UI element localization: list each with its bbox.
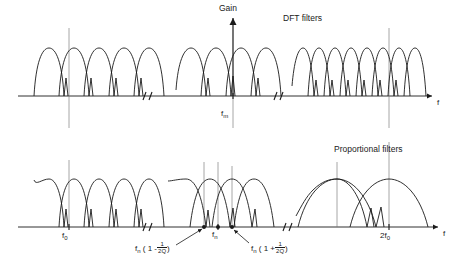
dft-filter-group-right (292, 48, 426, 96)
bottom-x-axis-label: f (443, 230, 445, 238)
top-axis-line (18, 92, 432, 100)
tick-label-fm-sub: m (223, 113, 228, 119)
top-x-axis-label: f (437, 99, 439, 107)
proportional-filter-group-left (34, 179, 164, 227)
fn-lower-fraction: 12Q (157, 241, 167, 255)
fn-upper-denominator: 2Q (275, 248, 285, 254)
tick-label-f0-sub: 0 (64, 235, 67, 241)
fn-upper-fraction: 12Q (275, 241, 285, 255)
proportional-filter-group-middle (168, 179, 274, 227)
fn-upper-open: ( 1 + (259, 244, 275, 253)
tick-label-2f0-sub: 0 (387, 235, 390, 241)
fn-upper-numerator: 1 (275, 241, 285, 248)
tick-label-fn-lower-edge: fn ( 1 -12Q) (135, 241, 170, 255)
tick-label-2f0-base: 2f (380, 231, 387, 240)
figure-canvas (0, 0, 457, 259)
tick-label-2f0: 2f0 (380, 232, 390, 241)
proportional-filter-group-right (296, 179, 428, 227)
tick-label-fm: fm (221, 110, 228, 119)
fn-upper-sub: n (253, 248, 256, 254)
fn-lower-numerator: 1 (157, 241, 167, 248)
fn-lower-open: ( 1 - (143, 244, 157, 253)
tick-label-f0: f0 (62, 232, 68, 241)
fn-lower-denominator: 2Q (157, 248, 167, 254)
dft-filter-group-middle (176, 48, 281, 96)
tick-label-fn-upper-edge: fn ( 1 +12Q) (251, 241, 288, 255)
dft-filters-annotation: DFT filters (283, 14, 322, 23)
gain-axis-label: Gain (219, 4, 237, 13)
fn-upper-close: ) (285, 244, 288, 253)
tick-label-fn-sub: n (214, 234, 217, 240)
proportional-filters-annotation: Proportional filters (334, 145, 403, 154)
dft-filter-group-left (34, 48, 164, 96)
tick-label-fn: fn (212, 231, 218, 240)
fn-lower-close: ) (167, 244, 170, 253)
figure-filter-bank-comparison: Gain DFT filters Proportional filters f … (0, 0, 457, 259)
fn-lower-sub: n (137, 248, 140, 254)
